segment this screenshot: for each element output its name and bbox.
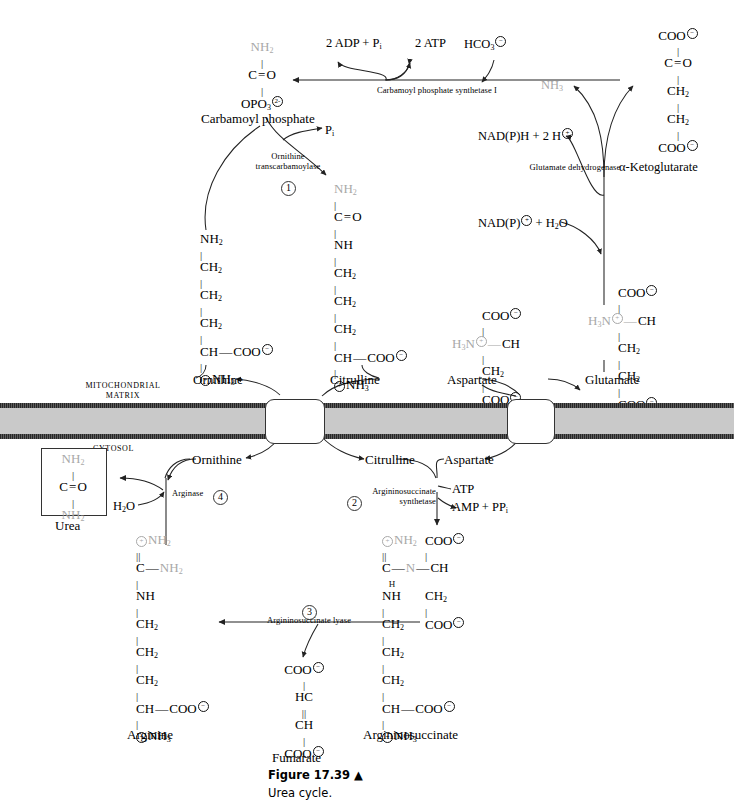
enzyme-argininosuccinate-lyase: Argininosuccinate lyase [239,616,379,626]
structure-aspartate-matrix: COO− | H3N+ — CH | CH2 | COO− [452,308,572,411]
step-number-2: 2 [347,492,362,511]
struct-row: COO− [425,533,505,552]
struct-row: NH2 [334,182,426,201]
bond: | [214,87,310,96]
bond: | [200,335,292,344]
label-nadph: NAD(P)H + 2 H+ [478,128,573,144]
bond: | [268,737,340,746]
struct-row: COO− [482,308,572,327]
struct-row: CH2 [136,645,228,664]
label-water: H2O [113,499,135,514]
struct-row: C — NH2 [136,561,228,580]
structure-citrulline: NH2 | C = O | NH | CH2 | CH2 | CH2 | CH … [316,182,426,397]
structure-arginine: +NH2 || C — NH2 | NH | CH2 | CH2 | CH2 |… [118,533,228,748]
struct-row: CH2 [618,341,708,360]
struct-row: COO− [638,140,718,159]
label-ornithine-matrix: Ornithine [193,372,243,388]
struct-row [425,561,505,580]
structure-carbamoyl-phosphate: NH2 | C = O | OPO32- [214,40,310,115]
struct-row: +NH2 [136,533,228,552]
struct-row: CH2 [334,294,426,313]
label-urea: Urea [55,518,80,534]
struct-row: CH2 [200,316,292,335]
bond: | [136,692,228,701]
struct-row: COO− [618,285,708,304]
label-ornithine-cytosol: Ornithine [192,452,242,468]
label-ammonia: NH3 [541,78,563,93]
structure-urea: NH2 | C = O | NH2 [41,452,105,527]
structure-ketoglutarate: COO− | C = O | CH2 | CH2 | COO− [638,28,718,159]
structure-argininosuccinate-side-chain: COO− | CH2 | COO− [425,533,505,636]
struct-row: CH2 [334,266,426,285]
label-argininosuccinate: Argininosuccinate [363,727,458,743]
bond: | [618,304,708,313]
struct-row: CH — COO− [334,350,426,369]
bond: | [618,388,708,397]
struct-row: CH2 [382,645,474,664]
label-citrulline-cytosol: Citrulline [365,452,415,468]
structure-ornithine-matrix: NH2 | CH2 | CH2 | CH2 | CH — COO− | +NH3 [182,232,292,391]
struct-row: CH — COO− [200,344,292,363]
label-aspartate-matrix: Aspartate [447,372,497,388]
bond: | [334,341,426,350]
label-mitochondrial-matrix: MITOCHONDRIAL MATRIX [68,381,178,401]
figure-number: Figure 17.39 ▲ [268,768,363,782]
struct-row: COO− [425,617,505,636]
enzyme-glutamate-dehydrogenase: Glutamate dehydrogenase [505,163,645,173]
struct-row: CH2 [200,288,292,307]
label-citrulline-matrix: Citrulline [330,372,380,388]
bond: | [382,692,474,701]
struct-row: CH2 [425,589,505,608]
label-bicarbonate: HCO3− [464,36,506,52]
struct-row: H3N+ — CH [618,313,708,332]
step-number-1: 1 [281,177,296,196]
label-aspartate-cytosol: Aspartate [444,452,494,468]
step-number-4: 4 [213,486,228,505]
struct-row: C = O [334,210,426,229]
struct-row: H3N+ — CH [482,336,572,355]
enzyme-argininosuccinate-synthetase: Argininosuccinate synthetase [364,487,436,507]
label-glutamate-matrix: Glutamate [585,372,639,388]
figure-caption: Urea cycle. [268,786,332,800]
struct-row: NH [334,238,426,257]
bond: | [425,608,505,617]
bond: | [638,131,718,140]
structure-glutamate-matrix: COO− | H3N+ — CH | CH2 | CH2 | COO− [588,285,708,416]
struct-row: CH2 [382,673,474,692]
label-pi-released: Pi [325,123,334,138]
label-carbamoyl-phosphate: Carbamoyl phosphate [201,111,315,127]
label-nadp-h2o: NAD(P)+ + H2O [478,215,568,231]
bond: | [425,552,505,561]
label-atp-in: 2 ATP [415,36,446,51]
struct-row: CH2 [136,673,228,692]
enzyme-carbamoyl-phosphate-synthetase-i: Carbamoyl phosphate synthetase I [342,86,532,96]
struct-row: CH — COO− [382,701,474,720]
struct-row: CH2 [200,260,292,279]
struct-row: CH — COO− [136,701,228,720]
enzyme-ornithine-transcarbamoylase: Ornithine transcarbamoylase [233,152,343,172]
struct-row: CH2 [136,617,228,636]
enzyme-arginase: Arginase [172,489,203,499]
struct-row: NH2 [200,232,292,251]
label-amp-ppi: AMP + PPi [452,500,508,515]
label-fumarate: Fumarate [272,750,321,766]
bond: | [482,327,572,336]
struct-row: NH [136,589,228,608]
aspartate-glutamate-transporter[interactable] [507,399,555,444]
ornithine-citrulline-transporter[interactable] [265,399,325,444]
struct-row: CH2 [334,322,426,341]
label-arginine: Arginine [127,727,173,743]
label-atp-ass: ATP [452,482,474,497]
label-adp-pi: 2 ADP + Pi [326,36,382,51]
